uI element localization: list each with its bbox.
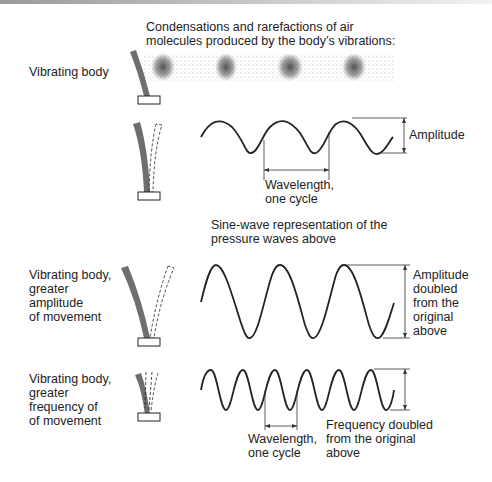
- row-label: Vibrating body, greater frequency of of …: [29, 372, 111, 428]
- wavelength-label: Wavelength, one cycle: [248, 432, 317, 460]
- vibrating-body-icon: [135, 372, 160, 421]
- condensation-caption: Condensations and rarefactions of air mo…: [146, 20, 395, 48]
- amplitude-doubled-label: Amplitude doubled from the original abov…: [413, 268, 469, 338]
- sine-caption: Sine-wave representation of the pressure…: [211, 218, 388, 246]
- wavelength-label: Wavelength, one cycle: [265, 178, 334, 206]
- air-molecule-band: [144, 53, 394, 81]
- row-label: Vibrating body, greater amplitude of mov…: [29, 268, 111, 324]
- vibrating-body-icon: [121, 266, 174, 346]
- sine-wave: [201, 118, 407, 180]
- frequency-doubled-label: Frequency doubled from the original abov…: [326, 418, 433, 460]
- row-label: Vibrating body: [29, 65, 109, 79]
- amplitude-label: Amplitude: [409, 128, 465, 142]
- sine-wave-double-amplitude: [201, 265, 410, 338]
- vibrating-body-icon: [133, 122, 162, 200]
